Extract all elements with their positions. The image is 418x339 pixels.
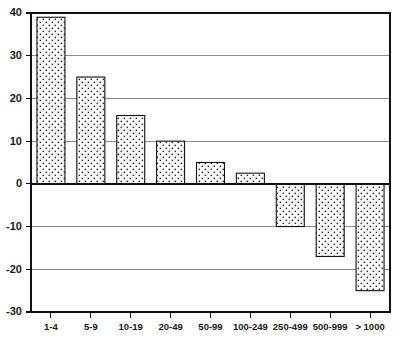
chart-canvas: 403020100-10-20-30 1-45-910-1920-4950-99… xyxy=(0,0,418,339)
bar-10-19 xyxy=(117,116,145,184)
x-axis-tick-label: 250-499 xyxy=(273,321,308,332)
y-axis-tick-label: 0 xyxy=(16,177,22,189)
y-axis-tick-label: 40 xyxy=(10,6,22,18)
x-axis-tick-label: 500-999 xyxy=(313,321,348,332)
x-axis-tick-label: 50-99 xyxy=(198,321,222,332)
x-axis-tick-label: 10-19 xyxy=(119,321,143,332)
bar-chart: 403020100-10-20-30 1-45-910-1920-4950-99… xyxy=(0,0,418,339)
bar-250-499 xyxy=(276,184,304,227)
y-axis-tick-label: -10 xyxy=(6,220,22,232)
y-axis-tick-label: -30 xyxy=(6,305,22,317)
bar-1-4 xyxy=(37,17,65,184)
bar-50-99 xyxy=(197,163,225,184)
bar-500-999 xyxy=(316,184,344,257)
y-axis-tick-label: -20 xyxy=(6,263,22,275)
x-axis-tick-label: > 1000 xyxy=(355,321,384,332)
y-axis-tick-label: 10 xyxy=(10,135,22,147)
x-axis-tick-label: 5-9 xyxy=(84,321,98,332)
y-axis-tick-label: 20 xyxy=(10,92,22,104)
bar-5-9 xyxy=(77,77,105,184)
x-axis-tick-label: 1-4 xyxy=(44,321,58,332)
bar-100-249 xyxy=(236,173,264,184)
x-axis-tick-label: 20-49 xyxy=(158,321,182,332)
bar-1000 xyxy=(356,184,384,291)
x-axis-tick-label: 100-249 xyxy=(233,321,268,332)
bar-20-49 xyxy=(157,141,185,184)
y-axis-tick-label: 30 xyxy=(10,49,22,61)
